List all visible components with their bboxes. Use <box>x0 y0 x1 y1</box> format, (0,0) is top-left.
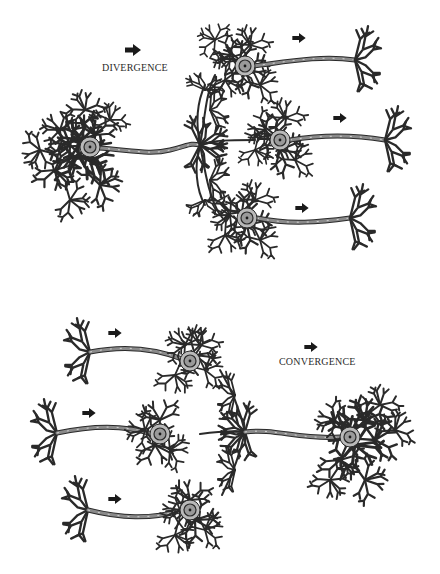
convergence-label: CONVERGENCE <box>279 356 356 367</box>
divergence-target-soma-3 <box>237 208 257 228</box>
divergence-target-terminal-2 <box>385 106 411 171</box>
divergence-target-axon-2 <box>290 136 385 140</box>
right-arrow-icon <box>333 113 346 123</box>
convergence-source-soma-3 <box>180 500 200 520</box>
neuron-diagram <box>0 0 440 574</box>
divergence-panel <box>11 16 411 263</box>
right-arrow-icon <box>108 494 121 504</box>
right-arrow-icon <box>125 44 141 56</box>
divergence-target-axon-1 <box>253 58 355 66</box>
right-arrow-icon <box>292 33 305 43</box>
convergence-source-axon-1 <box>90 348 185 360</box>
divergence-target-terminal-1 <box>355 26 381 91</box>
divergence-source-axon <box>98 144 200 152</box>
right-arrow-icon <box>304 342 317 352</box>
convergence-source-terminal-2 <box>31 399 57 464</box>
divergence-label: DIVERGENCE <box>102 62 168 73</box>
divergence-target-soma-1 <box>235 56 255 76</box>
convergence-source-terminal-1 <box>64 318 90 383</box>
right-arrow-icon <box>295 203 308 213</box>
convergence-panel <box>31 317 420 564</box>
convergence-source-soma-1 <box>180 351 200 371</box>
right-arrow-icon <box>108 328 121 338</box>
divergence-target-soma-2 <box>270 130 290 150</box>
divergence-source-soma <box>80 137 100 157</box>
convergence-target-axon <box>245 431 340 437</box>
convergence-source-terminal-3 <box>62 476 88 541</box>
convergence-source-soma-2 <box>150 424 170 444</box>
divergence-target-axon-3 <box>257 218 350 222</box>
divergence-source-neuron <box>11 82 131 222</box>
right-arrow-icon <box>82 408 95 418</box>
divergence-target-terminal-3 <box>350 184 376 249</box>
convergence-target-soma <box>340 427 360 447</box>
convergence-target-neuron <box>304 379 420 509</box>
